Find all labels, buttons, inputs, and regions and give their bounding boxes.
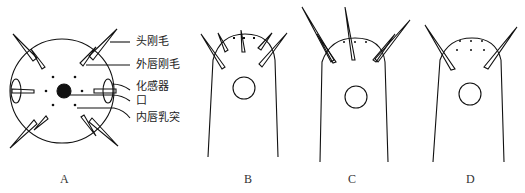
papillae-b [233,37,255,39]
label-outer-labial-setae: 外唇刚毛 [136,59,180,71]
panel-label-d: D [466,172,475,187]
pharynx-section [345,86,367,108]
panel-b-drawing [201,30,287,157]
pharynx-section [459,83,481,105]
papillae-c [343,41,367,43]
label-cephalic-setae: 头刚毛 [136,36,169,48]
panel-label-b: B [244,172,252,187]
leader-lines [70,42,130,118]
papillae-d [456,40,485,51]
mouth [57,84,71,98]
panel-c-drawing [302,7,410,162]
label-mouth: 口 [136,95,147,107]
label-amphid: 化感器 [136,81,169,93]
amphid-right [103,79,113,103]
panel-a-drawing [10,29,130,148]
nematode-head-diagram [0,0,525,193]
lateral-seta-left [12,89,34,93]
pharynx-section [233,77,255,99]
label-inner-labial-papillae: 内唇乳突 [136,112,180,124]
panel-label-a: A [60,172,69,187]
panel-label-c: C [348,172,356,187]
panel-d-drawing [425,25,517,162]
